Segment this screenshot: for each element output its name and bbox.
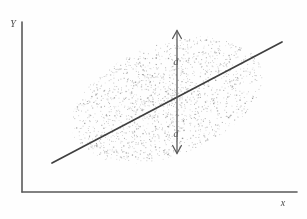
x-axis-label: x: [280, 197, 286, 208]
lower-distance-label: d: [174, 128, 180, 139]
scatter-point-cloud: [71, 36, 265, 164]
y-axis-label: Y: [10, 18, 17, 29]
regression-line: [52, 42, 282, 163]
figure-canvas: d d Y x: [0, 0, 307, 219]
upper-distance-label: d: [174, 56, 180, 67]
statistics-scatter-diagram: d d Y x: [0, 0, 307, 219]
